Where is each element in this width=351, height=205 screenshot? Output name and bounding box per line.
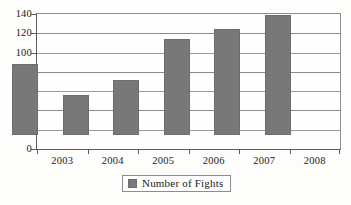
x-axis-tick-label: 2005 <box>152 154 174 167</box>
x-axis-tick-label: 2004 <box>102 154 124 167</box>
bar-slot <box>152 0 203 135</box>
bars-layer <box>0 0 303 135</box>
bar-chart: 020406080100120140 200320042005200620072… <box>0 0 351 205</box>
bar[interactable] <box>265 15 291 135</box>
chart-legend: Number of Fights <box>122 175 231 192</box>
x-axis-tick-label: 2003 <box>51 154 73 167</box>
bar-slot <box>253 0 304 135</box>
bar[interactable] <box>12 64 38 135</box>
x-axis-tick-label: 2007 <box>253 154 275 167</box>
x-axis-tick-label: 2006 <box>203 154 225 167</box>
y-axis-tick-label: 0 <box>2 144 32 155</box>
bar-slot <box>101 0 152 135</box>
bar-slot <box>202 0 253 135</box>
bar-slot <box>51 0 102 135</box>
x-axis-tick-label: 2008 <box>304 154 326 167</box>
legend-label: Number of Fights <box>142 178 223 189</box>
bar[interactable] <box>63 95 89 136</box>
bar-slot <box>0 0 51 135</box>
bar[interactable] <box>164 39 190 135</box>
bar[interactable] <box>113 80 139 135</box>
legend-swatch-icon <box>128 179 137 188</box>
x-axis-labels: 200320042005200620072008 <box>37 154 340 168</box>
bar[interactable] <box>214 29 240 135</box>
